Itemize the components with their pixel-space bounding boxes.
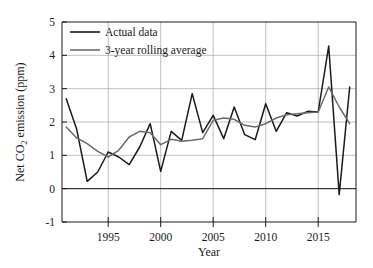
y-tick-label: 1 — [49, 149, 55, 161]
co2-emission-line-chart: -1012345 19952000200520102015 Net CO2 em… — [0, 0, 373, 268]
y-axis-title-post: emission (ppm) — [13, 62, 27, 140]
x-tick-label: 1995 — [97, 231, 120, 243]
y-tick-label: 3 — [49, 83, 55, 95]
y-tick-label: 2 — [49, 116, 55, 128]
x-axis-title-text: Year — [198, 245, 220, 259]
x-tick-label: 2000 — [149, 231, 172, 243]
y-tick-label: 0 — [49, 183, 55, 195]
legend-label-rolling-average: 3-year rolling average — [105, 44, 207, 57]
x-tick-label: 2005 — [202, 231, 225, 243]
chart-figure: -1012345 19952000200520102015 Net CO2 em… — [0, 0, 373, 268]
y-axis-tick-labels: -1012345 — [45, 16, 55, 228]
y-tick-label: -1 — [45, 216, 55, 228]
x-axis-tick-labels: 19952000200520102015 — [97, 231, 330, 243]
y-tick-label: 5 — [49, 16, 55, 28]
legend-label-actual-data: Actual data — [105, 26, 158, 38]
x-axis-title: Year — [198, 245, 220, 259]
x-tick-label: 2010 — [254, 231, 277, 243]
y-axis-title: Net CO2 emission (ppm) — [13, 62, 29, 181]
y-tick-label: 4 — [49, 49, 55, 61]
svg-text:Net CO2 emission (ppm): Net CO2 emission (ppm) — [13, 62, 29, 181]
y-axis-title-pre: Net CO — [13, 144, 27, 181]
x-tick-label: 2015 — [307, 231, 330, 243]
